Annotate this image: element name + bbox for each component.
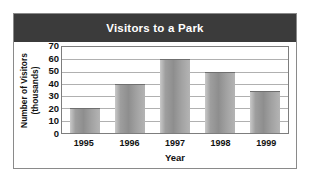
x-axis-tick-1995: 1995: [69, 138, 99, 148]
x-axis-tick-1999: 1999: [251, 138, 281, 148]
x-axis-tick-1996: 1996: [114, 138, 144, 148]
x-axis-label: Year: [61, 152, 289, 163]
x-axis-tick-1998: 1998: [206, 138, 236, 148]
y-axis-label: Number of Visitors (thousands): [16, 42, 42, 138]
x-axis-tick-labels: 19951996199719981999: [61, 136, 289, 150]
x-axis-tick-1997: 1997: [160, 138, 190, 148]
y-axis-tick-60: 60: [48, 54, 59, 64]
bar-1995: [70, 108, 100, 133]
bar-1998: [205, 72, 235, 133]
y-axis-tick-70: 70: [48, 41, 59, 51]
y-axis-tick-10: 10: [48, 117, 59, 127]
y-axis-tick-20: 20: [48, 104, 59, 114]
bar-1999: [250, 91, 280, 133]
chart-title: Visitors to a Park: [106, 22, 203, 34]
chart-title-band: Visitors to a Park: [14, 14, 296, 42]
y-axis-tick-40: 40: [48, 79, 59, 89]
y-axis-tick-labels: 010203040506070: [40, 46, 59, 134]
chart-body: Number of Visitors (thousands) 010203040…: [14, 42, 296, 168]
y-axis-tick-0: 0: [54, 129, 59, 139]
plot-area: [61, 46, 289, 134]
y-axis-label-line1: Number of Visitors: [19, 53, 29, 128]
y-axis-tick-30: 30: [48, 92, 59, 102]
chart-figure: Visitors to a Park Number of Visitors (t…: [13, 13, 297, 169]
y-axis-label-line2: (thousands): [29, 66, 39, 114]
bar-1996: [115, 84, 145, 133]
bar-1997: [160, 59, 190, 133]
y-axis-tick-50: 50: [48, 66, 59, 76]
bar-series: [62, 47, 288, 133]
